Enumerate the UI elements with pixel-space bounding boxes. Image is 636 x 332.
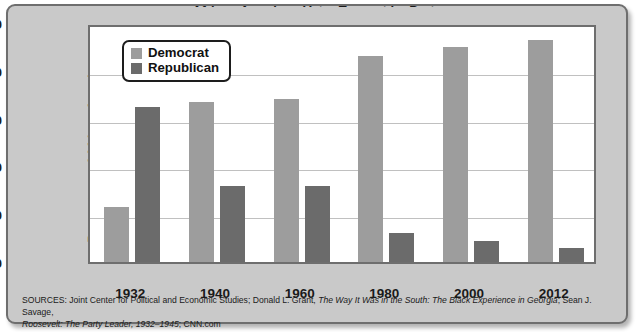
y-tick-label-60: 60	[0, 114, 2, 128]
sources-line-2: Roosevelt: The Party Leader, 1932–1945; …	[22, 318, 612, 330]
bar-democrat-1940	[189, 102, 214, 262]
legend-swatch-republican-icon	[131, 63, 142, 74]
bar-democrat-1932	[104, 207, 129, 262]
legend-label-democrat: Democrat	[148, 46, 209, 61]
chart-legend: Democrat Republican	[122, 40, 231, 82]
sources-title-2: Roosevelt: The Party Leader, 1932–1945	[22, 319, 179, 329]
bar-democrat-2000	[443, 47, 468, 262]
bar-republican-1960	[305, 186, 330, 262]
legend-item-republican: Republican	[131, 61, 219, 76]
bar-republican-2012	[559, 248, 584, 262]
legend-swatch-democrat-icon	[131, 48, 142, 59]
bar-democrat-2012	[528, 40, 553, 262]
plot-area: Democrat Republican	[88, 25, 596, 264]
plot-wrapper: Percentage of African Americans who vote…	[80, 20, 596, 268]
bar-democrat-1960	[274, 99, 299, 262]
legend-label-republican: Republican	[148, 61, 219, 76]
y-tick-label-20: 20	[0, 209, 2, 223]
sources-line-1: SOURCES: Joint Center for Political and …	[22, 294, 612, 318]
bar-republican-1980	[389, 233, 414, 262]
y-tick-label-80: 80	[0, 66, 2, 80]
chart-title-cropped: African American Voter Turnout by Party	[8, 3, 626, 7]
sources-title-1: The Way It Was in the South: The Black E…	[318, 295, 557, 305]
legend-item-democrat: Democrat	[131, 46, 219, 61]
bar-republican-2000	[474, 241, 499, 263]
bar-republican-1932	[135, 107, 160, 262]
sources-prefix: SOURCES: Joint Center for Political and …	[22, 295, 318, 305]
sources-suffix-2: ; CNN.com	[179, 319, 221, 329]
chart-figure: African American Voter Turnout by Party …	[6, 4, 628, 324]
bar-democrat-1980	[358, 56, 383, 262]
chart-sources: SOURCES: Joint Center for Political and …	[22, 294, 612, 331]
y-tick-label-100: 100	[0, 18, 2, 32]
y-tick-label-0: 0	[0, 257, 2, 271]
y-tick-label-40: 40	[0, 161, 2, 175]
bar-republican-1940	[220, 186, 245, 262]
